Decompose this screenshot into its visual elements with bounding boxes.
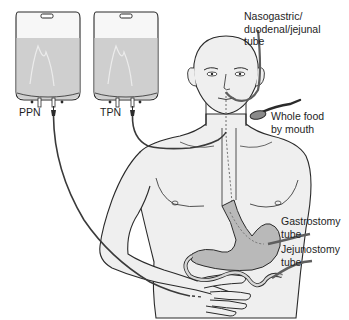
label-gastrostomy-tube: Gastrostomy tube <box>281 215 341 240</box>
label-whole-food: Whole food by mouth <box>271 110 324 135</box>
label-jejunostomy-tube: Jejunostomy tube <box>281 243 340 268</box>
nutrition-routes-diagram: PPN TPN Nasogastric/ duodenal/jejunal tu… <box>0 0 349 320</box>
tpn-bag-icon <box>94 12 158 116</box>
label-tpn: TPN <box>100 106 121 119</box>
label-nasogastric-tube: Nasogastric/ duodenal/jejunal tube <box>244 10 320 48</box>
illustration <box>0 0 349 320</box>
ppn-bag-icon <box>16 12 80 116</box>
label-ppn: PPN <box>19 106 41 119</box>
